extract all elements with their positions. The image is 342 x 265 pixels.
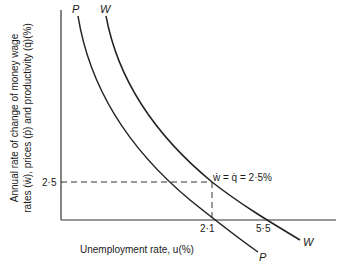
equilibrium-annotation: ẇ = q̇ = 2·5%: [212, 172, 272, 183]
p-curve-label-top: P: [72, 3, 80, 15]
phillips-curve-chart: P W P W 2·5 2·1 5·5 ẇ = q̇ = 2·5% Unempl…: [0, 0, 342, 265]
w-curve-label-top: W: [100, 3, 112, 15]
p-curve-label-bottom: P: [259, 251, 267, 263]
x-tick-2-1: 2·1: [200, 223, 215, 234]
y-axis-label-line1: Annual rate of change of money wage: [9, 33, 20, 202]
y-tick-2-5: 2·5: [42, 177, 57, 188]
p-curve: [78, 16, 258, 252]
x-axis-label: Unemployment rate, u(%): [80, 244, 194, 255]
w-curve-label-bottom: W: [303, 236, 315, 248]
x-tick-5-5: 5·5: [256, 223, 271, 234]
y-axis-label-line2: rates (ẇ), prices (ṗ) and productivity (…: [22, 23, 33, 213]
w-curve: [106, 16, 300, 240]
